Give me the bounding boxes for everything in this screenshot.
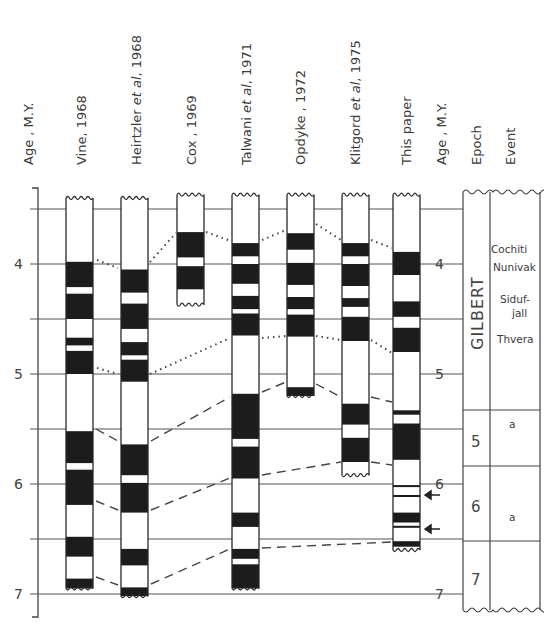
- normal-polarity-band: [342, 317, 369, 341]
- normal-polarity-band: [232, 447, 259, 479]
- normal-polarity-band: [232, 314, 259, 336]
- normal-polarity-band: [66, 537, 93, 557]
- event-nunivak: Nunivak: [493, 261, 537, 273]
- normal-polarity-band: [66, 294, 93, 319]
- column-heirtzler-et-al-1968: [121, 197, 148, 598]
- event-cochiti: Cochiti: [491, 243, 527, 255]
- right-tick-label-4: 4: [435, 256, 444, 272]
- normal-polarity-band: [342, 264, 369, 286]
- normal-polarity-band: [121, 483, 148, 513]
- normal-polarity-band: [232, 564, 259, 588]
- normal-polarity-band: [232, 513, 259, 527]
- epoch-7: 7: [471, 571, 481, 589]
- normal-polarity-band: [177, 232, 204, 257]
- normal-polarity-band: [393, 495, 420, 497]
- normal-polarity-band: [393, 410, 420, 414]
- normal-polarity-band: [393, 252, 420, 275]
- normal-polarity-band: [177, 266, 204, 289]
- normal-polarity-band: [393, 424, 420, 460]
- normal-polarity-band: [121, 304, 148, 329]
- normal-polarity-band: [393, 301, 420, 316]
- normal-polarity-band: [287, 315, 314, 337]
- normal-polarity-band: [393, 541, 420, 547]
- normal-polarity-band: [121, 549, 148, 566]
- normal-polarity-band: [66, 262, 93, 287]
- normal-polarity-band: [342, 438, 369, 462]
- arrow-markers: [425, 491, 440, 533]
- column-cox-1969: [177, 193, 204, 306]
- epoch-labels: GILBERT 5 6 7: [468, 276, 487, 589]
- header-epoch: Epoch: [469, 125, 484, 165]
- normal-polarity-band: [66, 338, 93, 346]
- event-siduf: Siduf-: [500, 293, 530, 305]
- header-this-paper: This paper: [399, 96, 414, 166]
- event-thvera: Thvera: [496, 333, 534, 345]
- header-event: Event: [503, 128, 518, 165]
- header-cox: Cox , 1969: [184, 95, 199, 165]
- header-age-left: Age , M.Y.: [21, 103, 36, 165]
- arrow-icon: [425, 491, 440, 499]
- normal-polarity-band: [342, 243, 369, 256]
- column-talwani-et-al-1971: [232, 193, 259, 590]
- normal-polarity-band: [393, 526, 420, 528]
- normal-polarity-band: [393, 328, 420, 352]
- correlation-chart: Age , M.Y. Vine, 1968 Heirtzler et al, 1…: [0, 0, 544, 627]
- column-vine-1968: [66, 197, 93, 591]
- right-tick-label-5: 5: [435, 366, 444, 382]
- header-klitgord: Klitgord et al, 1975: [348, 40, 363, 165]
- right-tick-label-6: 6: [435, 476, 444, 492]
- header-opdyke: Opdyke , 1972: [293, 70, 308, 165]
- magnetic-columns: [66, 193, 420, 598]
- left-axis-ticks: 4 5 6 7: [14, 256, 23, 602]
- normal-polarity-band: [342, 298, 369, 307]
- epoch-gilbert: GILBERT: [468, 276, 487, 350]
- header-talwani: Talwani et al, 1971: [239, 43, 254, 166]
- normal-polarity-band: [66, 351, 93, 374]
- right-tick-label-7: 7: [435, 586, 444, 602]
- column-opdyke-1972: [287, 193, 314, 397]
- tick-label-5: 5: [14, 366, 23, 382]
- normal-polarity-band: [232, 264, 259, 284]
- normal-polarity-band: [121, 444, 148, 475]
- normal-polarity-band: [121, 270, 148, 293]
- normal-polarity-band: [121, 342, 148, 355]
- event-labels: Cochiti Nunivak Siduf- jall Thvera a a: [491, 243, 537, 523]
- normal-polarity-band: [287, 297, 314, 309]
- header-age-right: Age , M.Y.: [434, 103, 449, 165]
- epoch-6: 6: [471, 498, 481, 516]
- header-heirtzler: Heirtzler et al, 1968: [129, 35, 144, 165]
- arrow-icon: [425, 525, 440, 533]
- left-age-axis: [32, 188, 38, 617]
- normal-polarity-band: [232, 549, 259, 559]
- column-this-paper: [393, 193, 420, 551]
- event-a-6: a: [509, 511, 515, 523]
- normal-polarity-band: [287, 233, 314, 250]
- normal-polarity-band: [121, 360, 148, 382]
- normal-polarity-band: [232, 243, 259, 256]
- event-a-5: a: [509, 418, 515, 430]
- epoch-5: 5: [471, 433, 481, 451]
- column-headers: Age , M.Y. Vine, 1968 Heirtzler et al, 1…: [21, 35, 518, 166]
- normal-polarity-band: [287, 263, 314, 285]
- event-jall: jall: [511, 307, 527, 319]
- normal-polarity-band: [342, 404, 369, 425]
- column-klitgord-et-al-1975: [342, 193, 369, 477]
- tick-label-7: 7: [14, 586, 23, 602]
- tick-label-6: 6: [14, 476, 23, 492]
- header-vine: Vine, 1968: [74, 95, 89, 165]
- normal-polarity-band: [66, 431, 93, 463]
- normal-polarity-band: [232, 296, 259, 309]
- tick-label-4: 4: [14, 256, 23, 272]
- normal-polarity-band: [66, 470, 93, 505]
- normal-polarity-band: [232, 394, 259, 439]
